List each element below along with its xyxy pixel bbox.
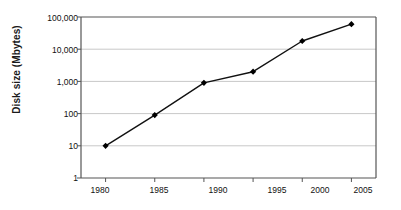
- plot-area: [0, 0, 401, 210]
- gridlines: [81, 49, 376, 146]
- data-line: [106, 24, 352, 146]
- data-markers: [102, 21, 354, 149]
- x-axis-ticks: [106, 178, 352, 182]
- data-point: [348, 21, 354, 27]
- chart-container: Disk size (Mbytes) 100,000 10,000 1,000 …: [0, 0, 401, 210]
- plot-frame: [81, 17, 376, 178]
